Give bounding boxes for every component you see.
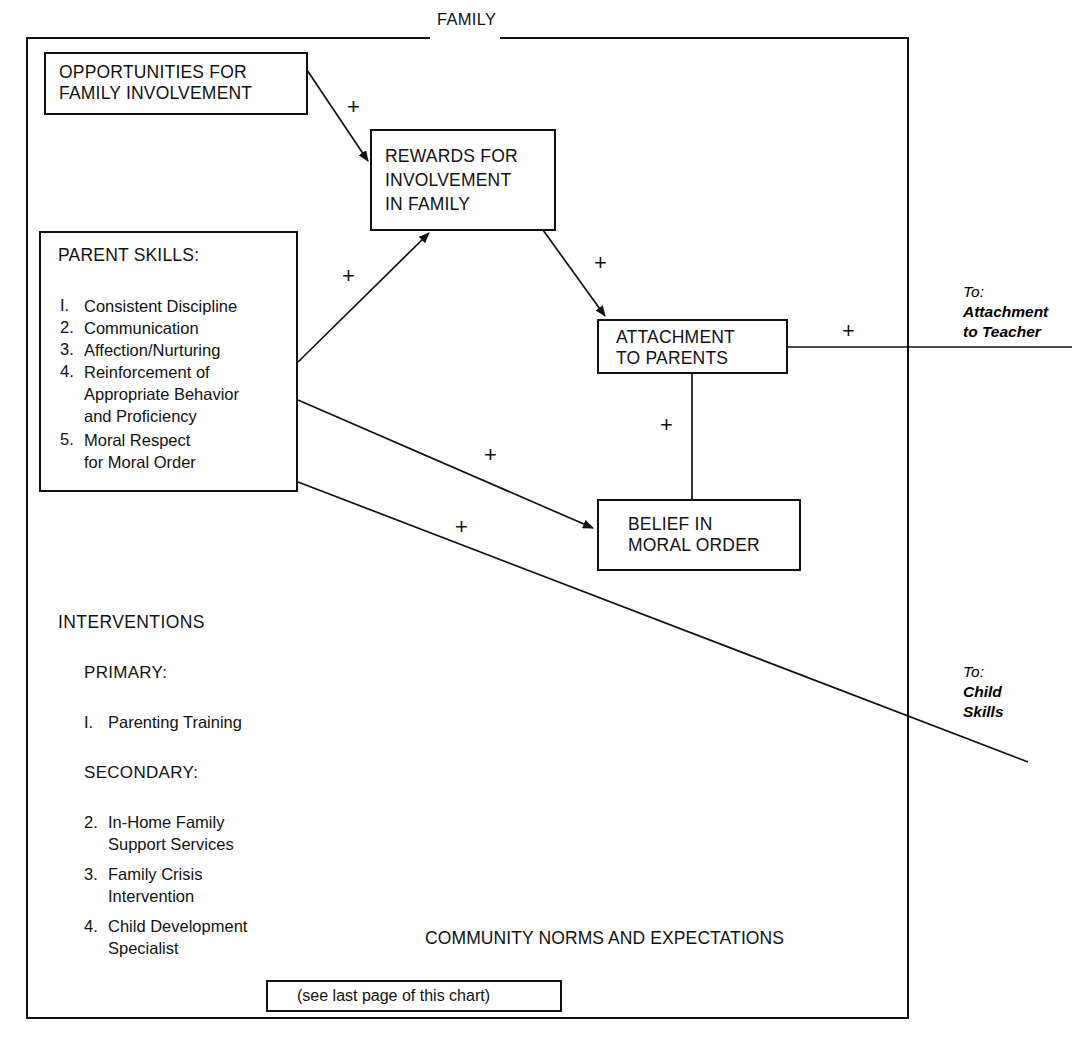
- primary-item-1-num: I.: [84, 712, 93, 732]
- parent-skill-3-text: Affection/Nurturing: [84, 340, 220, 360]
- diagram-page: FAMILY OPPORTUNITIES FOR FAMILY INVOLVEM…: [0, 0, 1090, 1049]
- parent-skill-5-text-1: Moral Respect: [84, 430, 190, 450]
- rewards-line-1: REWARDS FOR: [385, 146, 518, 166]
- secondary-item-3-num: 3.: [84, 864, 98, 884]
- to-teacher-label: To: Attachment to Teacher: [963, 282, 1048, 342]
- interventions-secondary-label: SECONDARY:: [84, 763, 198, 783]
- attachment-line-1: ATTACHMENT: [616, 327, 735, 347]
- sign-skills-rewards: +: [342, 265, 355, 287]
- parent-skills-title: PARENT SKILLS:: [58, 245, 199, 265]
- secondary-item-3-text-2: Intervention: [108, 886, 194, 906]
- interventions-heading: INTERVENTIONS: [58, 612, 205, 632]
- to-teacher-line-2: to Teacher: [963, 322, 1048, 342]
- see-last-page-text: (see last page of this chart): [297, 987, 490, 1006]
- family-frame-title: FAMILY: [437, 10, 496, 29]
- sign-skills-belief: +: [484, 444, 497, 466]
- secondary-item-4-text-1: Child Development: [108, 916, 247, 936]
- parent-skill-4-text-1: Reinforcement of: [84, 362, 210, 382]
- rewards-line-2: INVOLVEMENT: [385, 170, 511, 190]
- secondary-item-2-text-1: In-Home Family: [108, 812, 224, 832]
- sign-rewards-attachment: +: [594, 252, 607, 274]
- parent-skill-2-num: 2.: [60, 318, 74, 337]
- attachment-line-2: TO PARENTS: [616, 348, 728, 368]
- community-norms-title: COMMUNITY NORMS AND EXPECTATIONS: [425, 928, 784, 948]
- secondary-item-2-num: 2.: [84, 812, 98, 832]
- sign-attachment-belief: +: [660, 414, 673, 436]
- edge-skills-rewards: [298, 233, 429, 362]
- to-teacher-line-1: Attachment: [963, 302, 1048, 322]
- belief-line-1: BELIEF IN: [628, 514, 712, 534]
- parent-skill-5-num: 5.: [60, 430, 74, 449]
- sign-skills-child: +: [455, 516, 468, 538]
- secondary-item-4-num: 4.: [84, 916, 98, 936]
- to-child-lead: To:: [963, 662, 1004, 682]
- secondary-item-2-text-2: Support Services: [108, 834, 234, 854]
- to-child-skills-label: To: Child Skills: [963, 662, 1004, 722]
- to-child-line-1: Child: [963, 682, 1004, 702]
- primary-item-1-text: Parenting Training: [108, 712, 242, 732]
- parent-skill-2-text: Communication: [84, 318, 199, 338]
- parent-skill-1-num: I.: [60, 296, 69, 315]
- sign-opportunities-rewards: +: [347, 96, 360, 118]
- parent-skill-4-text-3: and Proficiency: [84, 406, 197, 426]
- parent-skill-4-text-2: Appropriate Behavior: [84, 384, 239, 404]
- sign-attachment-teacher: +: [842, 320, 855, 342]
- to-teacher-lead: To:: [963, 282, 1048, 302]
- parent-skill-4-num: 4.: [60, 362, 74, 381]
- parent-skill-5-text-2: for Moral Order: [84, 452, 196, 472]
- edge-skills-belief: [298, 400, 593, 528]
- rewards-line-3: IN FAMILY: [385, 194, 470, 214]
- secondary-item-3-text-1: Family Crisis: [108, 864, 202, 884]
- secondary-item-4-text-2: Specialist: [108, 938, 179, 958]
- opportunities-line-1: OPPORTUNITIES FOR: [59, 62, 247, 82]
- interventions-primary-label: PRIMARY:: [84, 663, 167, 683]
- parent-skill-1-text: Consistent Discipline: [84, 296, 237, 316]
- belief-line-2: MORAL ORDER: [628, 535, 760, 555]
- parent-skill-3-num: 3.: [60, 340, 74, 359]
- to-child-line-2: Skills: [963, 702, 1004, 722]
- opportunities-line-2: FAMILY INVOLVEMENT: [59, 83, 252, 103]
